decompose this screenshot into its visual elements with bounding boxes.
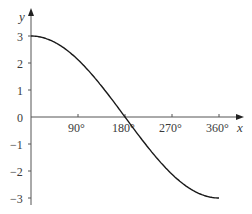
y-tick-label: 2 <box>17 57 23 71</box>
x-tick-label: 90° <box>68 121 85 135</box>
y-tick-label: −2 <box>10 165 23 179</box>
y-tick-label: 1 <box>17 84 23 98</box>
y-tick-label: −3 <box>10 192 23 206</box>
y-tick-label: 0 <box>17 111 23 125</box>
y-tick-label: −1 <box>10 138 23 152</box>
chart: y x 3 2 1 0 −1 −2 −3 90° 180° 270° 360° <box>0 0 252 214</box>
y-tick-label: 3 <box>17 30 23 44</box>
x-tick-label: 360° <box>206 121 229 135</box>
x-axis-label: x <box>236 120 243 135</box>
y-axis-label: y <box>17 9 25 24</box>
x-tick-label: 180° <box>112 121 135 135</box>
x-tick-label: 270° <box>159 121 182 135</box>
y-axis-arrow-icon <box>28 8 34 16</box>
